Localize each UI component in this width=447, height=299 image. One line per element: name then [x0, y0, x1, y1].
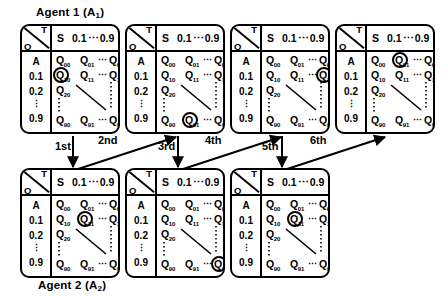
q-cell-Q10[interactable]: Q10: [56, 213, 71, 225]
q-cell-subscript: 01: [193, 62, 200, 68]
q-cell-Q00[interactable]: Q00: [56, 54, 71, 66]
q-cell-Q01[interactable]: Q01: [290, 198, 305, 210]
col-axis-label: T: [356, 24, 362, 35]
row-headers: A0.10.2⋮0.9: [22, 52, 52, 132]
q-cell-Q20[interactable]: Q20: [56, 228, 71, 240]
q-cell-Q90[interactable]: Q90: [266, 258, 281, 270]
q-cell-Q10[interactable]: Q10: [266, 213, 281, 225]
q-cell-Q90[interactable]: Q90: [161, 258, 176, 270]
column-header-1: 0.1: [387, 32, 402, 44]
q-cell-Q91[interactable]: Q91: [80, 114, 95, 126]
q-table-t6[interactable]: TOS0.1⋯0.9A0.10.2⋮0.9Q00Q01Q09⋯Q10Q11Q19…: [125, 168, 225, 278]
q-cell-Q99[interactable]: Q99: [319, 258, 330, 270]
q-cell-Q09[interactable]: Q09: [109, 54, 120, 66]
column-header-0: S: [57, 32, 64, 44]
q-cell-Q11[interactable]: Q11: [290, 69, 305, 81]
q-cell-Q90[interactable]: Q90: [161, 114, 176, 126]
q-cell-Q20[interactable]: Q20: [266, 84, 281, 96]
column-header-1: 0.1: [177, 176, 192, 188]
q-cell-Q00[interactable]: Q00: [266, 54, 281, 66]
row-header-0: A: [242, 198, 249, 213]
q-cell-Q19[interactable]: Q19: [319, 213, 330, 225]
q-cell-Q09[interactable]: Q09: [109, 198, 120, 210]
q-cell-subscript: 10: [169, 221, 176, 227]
q-cell-Q90[interactable]: Q90: [56, 258, 71, 270]
q-cell-Q91[interactable]: Q91: [395, 114, 410, 126]
q-cell-Q01[interactable]: Q01: [80, 54, 95, 66]
q-table-t5[interactable]: TOS0.1⋯0.9A0.10.2⋮0.9Q00Q01Q09⋯Q10Q11Q19…: [20, 168, 120, 278]
selected-q-value-ring-Q99[interactable]: [211, 256, 225, 272]
q-cell-Q10[interactable]: Q10: [161, 69, 176, 81]
q-cell-Q00[interactable]: Q00: [266, 198, 281, 210]
q-cell-Q10[interactable]: Q10: [266, 69, 281, 81]
row-header-0: A: [32, 54, 39, 69]
selected-q-value-ring-Q10[interactable]: [53, 67, 69, 83]
selected-q-value-ring-Q11[interactable]: [77, 211, 93, 227]
q-cell-subscript: 91: [88, 266, 95, 272]
q-cell-Q09[interactable]: Q09: [319, 54, 330, 66]
q-table-t4[interactable]: TOS0.1⋯0.9A0.10.2⋮0.9Q00Q01Q09⋯Q10Q11Q19…: [335, 24, 435, 134]
q-table-body: A0.10.2⋮0.9Q00Q01Q09⋯Q10Q11Q19⋯Q20Q90Q91…: [232, 196, 328, 276]
q-cell-Q09[interactable]: Q09: [319, 198, 330, 210]
q-cell-Q20[interactable]: Q20: [56, 84, 71, 96]
q-cell-Q10[interactable]: Q10: [371, 69, 386, 81]
q-table-t1[interactable]: TOS0.1⋯0.9A0.10.2⋮0.9Q00Q01Q09⋯Q10Q11Q19…: [20, 24, 120, 134]
row-header-2: 0.2: [29, 84, 43, 99]
q-cell-Q20[interactable]: Q20: [266, 228, 281, 240]
q-cell-Q91[interactable]: Q91: [290, 114, 305, 126]
selected-q-value-ring-Q19[interactable]: [316, 67, 330, 83]
row-axis-label: O: [24, 185, 31, 196]
q-cell-Q09[interactable]: Q09: [214, 54, 225, 66]
q-cell-subscript: 90: [64, 122, 71, 128]
row-header-4: 0.9: [29, 111, 43, 126]
q-cell-Q91[interactable]: Q91: [185, 258, 200, 270]
q-cell-Q01[interactable]: Q01: [185, 54, 200, 66]
step-label-5th: 5th: [262, 140, 279, 152]
q-cell-Q01[interactable]: Q01: [80, 198, 95, 210]
q-cell-Q09[interactable]: Q09: [424, 54, 435, 66]
q-cell-Q99[interactable]: Q99: [109, 114, 120, 126]
q-cell-Q99[interactable]: Q99: [319, 114, 330, 126]
q-cell-Q20[interactable]: Q20: [161, 84, 176, 96]
q-cell-Q91[interactable]: Q91: [80, 258, 95, 270]
q-cell-Q11[interactable]: Q11: [80, 69, 95, 81]
row-ellipsis: ⋯: [98, 55, 106, 65]
q-cell-Q01[interactable]: Q01: [185, 198, 200, 210]
q-cell-Q11[interactable]: Q11: [185, 69, 200, 81]
q-cell-Q19[interactable]: Q19: [109, 69, 120, 81]
q-cell-Q19[interactable]: Q19: [109, 213, 120, 225]
q-cell-Q09[interactable]: Q09: [214, 198, 225, 210]
q-cell-Q99[interactable]: Q99: [109, 258, 120, 270]
q-cell-Q10[interactable]: Q10: [161, 213, 176, 225]
q-cell-Q19[interactable]: Q19: [424, 69, 435, 81]
q-cell-Q19[interactable]: Q19: [214, 69, 225, 81]
row-ellipsis: ⋯: [308, 199, 316, 209]
q-table-t2[interactable]: TOS0.1⋯0.9A0.10.2⋮0.9Q00Q01Q09⋯Q10Q11Q19…: [125, 24, 225, 134]
q-cell-Q00[interactable]: Q00: [371, 54, 386, 66]
q-table-t7[interactable]: TOS0.1⋯0.9A0.10.2⋮0.9Q00Q01Q09⋯Q10Q11Q19…: [230, 168, 330, 278]
q-cell-Q99[interactable]: Q99: [424, 114, 435, 126]
q-cell-Q19[interactable]: Q19: [214, 213, 225, 225]
q-cell-subscript: 99: [327, 266, 330, 272]
q-cell-Q11[interactable]: Q11: [185, 213, 200, 225]
q-cell-Q11[interactable]: Q11: [395, 69, 410, 81]
column-header-0: S: [162, 176, 169, 188]
q-cell-Q20[interactable]: Q20: [371, 84, 386, 96]
selected-q-value-ring-Q11[interactable]: [287, 211, 303, 227]
q-cell-Q00[interactable]: Q00: [161, 198, 176, 210]
col-axis-label: T: [146, 168, 152, 179]
q-cell-Q90[interactable]: Q90: [56, 114, 71, 126]
q-cell-Q90[interactable]: Q90: [371, 114, 386, 126]
selected-q-value-ring-Q91[interactable]: [182, 112, 198, 128]
selected-q-value-ring-Q01[interactable]: [392, 52, 408, 68]
q-table-header: TOS0.1⋯0.9: [232, 26, 328, 52]
q-cell-Q00[interactable]: Q00: [161, 54, 176, 66]
q-cell-Q20[interactable]: Q20: [161, 228, 176, 240]
q-table-t3[interactable]: TOS0.1⋯0.9A0.10.2⋮0.9Q00Q01Q09⋯Q10Q11Q19…: [230, 24, 330, 134]
q-cell-Q90[interactable]: Q90: [266, 114, 281, 126]
q-cell-Q01[interactable]: Q01: [290, 54, 305, 66]
q-cell-Q00[interactable]: Q00: [56, 198, 71, 210]
q-cell-Q99[interactable]: Q99: [214, 114, 225, 126]
q-cell-Q91[interactable]: Q91: [290, 258, 305, 270]
row-header-1: 0.1: [239, 69, 253, 84]
